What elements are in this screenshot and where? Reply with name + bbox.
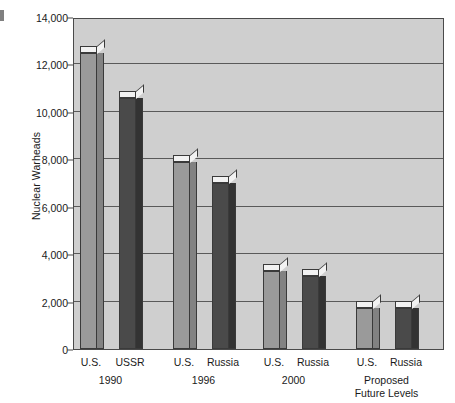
bar-1990-ussr [119,98,136,349]
x-group-label-1990: 1990 [99,374,122,387]
y-tick-label-0: 0 [4,344,68,356]
bar-front-face [356,308,373,350]
bar-1996-us [173,162,190,349]
x-series-label-2000-russia: Russia [297,356,329,368]
y-tick-label-8000: 8,000 [4,154,68,166]
bar-1996-russia [212,183,229,349]
bar-top-face [212,176,229,183]
bar-top-face [173,155,190,162]
bar-top-face [356,301,373,308]
y-tick-label-4000: 4,000 [4,249,68,261]
y-tick-label-6000: 6,000 [4,202,68,214]
x-group-label-line: 1990 [99,374,122,387]
x-series-label-2000-us: U.S. [264,356,284,368]
y-tick-label-12000: 12,000 [4,59,68,71]
x-group-label-line: 2000 [282,374,305,387]
bar-1990-us [80,53,97,349]
x-series-label-1990-ussr: USSR [115,356,144,368]
bar-side-face [373,308,380,350]
gridline-12000 [74,63,443,64]
bar-top-face [119,91,136,98]
bar-side-face [97,53,104,349]
bar-side-face [412,308,419,350]
x-group-label-proposed-future-levels: ProposedFuture Levels [355,374,419,400]
plot-inner [74,19,443,349]
bar-side-face [136,98,143,349]
bar-front-face [80,53,97,349]
bar-front-face [263,271,280,349]
bar-top-face [80,46,97,53]
x-group-label-line: Future Levels [355,387,419,400]
bar-front-face [212,183,229,349]
bar-front-face [395,308,412,350]
bar-top-face [395,301,412,308]
x-group-label-line: 1996 [192,374,215,387]
y-tick-label-10000: 10,000 [4,107,68,119]
x-series-label-proposed-future-levels-russia: Russia [390,356,422,368]
y-tick-label-14000: 14,000 [4,12,68,24]
bar-side-face [229,183,236,349]
bar-side-face [190,162,197,349]
bar-2000-russia [302,276,319,350]
x-series-label-proposed-future-levels-us: U.S. [357,356,377,368]
bar-top-face [302,269,319,276]
x-series-label-1996-us: U.S. [174,356,194,368]
y-axis-title: Nuclear Warheads [30,96,42,256]
nuclear-warheads-bar-chart: Nuclear Warheads 02,0004,0006,0008,00010… [0,0,455,403]
x-group-label-1996: 1996 [192,374,215,387]
bar-proposed-future-levels-us [356,308,373,350]
plot-area [73,18,444,350]
bar-front-face [302,276,319,350]
bar-proposed-future-levels-russia [395,308,412,350]
x-group-label-line: Proposed [355,374,419,387]
x-group-label-2000: 2000 [282,374,305,387]
y-tick-label-2000: 2,000 [4,297,68,309]
bar-side-face [319,276,326,350]
x-series-label-1990-us: U.S. [81,356,101,368]
x-series-label-1996-russia: Russia [207,356,239,368]
bar-side-face [280,271,287,349]
bar-front-face [119,98,136,349]
bar-2000-us [263,271,280,349]
bar-top-face [263,264,280,271]
bar-front-face [173,162,190,349]
